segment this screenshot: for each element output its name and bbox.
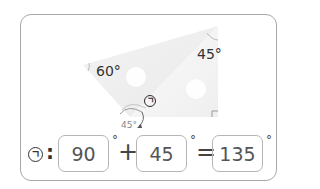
colon: : [46, 142, 54, 162]
angle-label-60: 60° [96, 64, 121, 78]
marker-symbol: ㄱ [147, 97, 154, 105]
arrow-head-icon [137, 124, 142, 128]
ruler-hole-1 [126, 67, 146, 87]
angle-label-45-top: 45° [197, 47, 222, 61]
answer-box-1[interactable]: 90 [58, 135, 109, 172]
ruler-hole-2 [186, 79, 206, 99]
answer-box-result[interactable]: 135 [212, 135, 263, 172]
angle-marker-giyeok: ㄱ [144, 95, 156, 107]
equation-label-symbol: ㄱ [31, 149, 40, 159]
equation-label-giyeok: ㄱ [28, 147, 43, 162]
answer-box-2[interactable]: 45 [136, 135, 187, 172]
angle-label-45-bottom: 45° [121, 121, 137, 130]
degree-symbol-3: ° [266, 134, 272, 146]
